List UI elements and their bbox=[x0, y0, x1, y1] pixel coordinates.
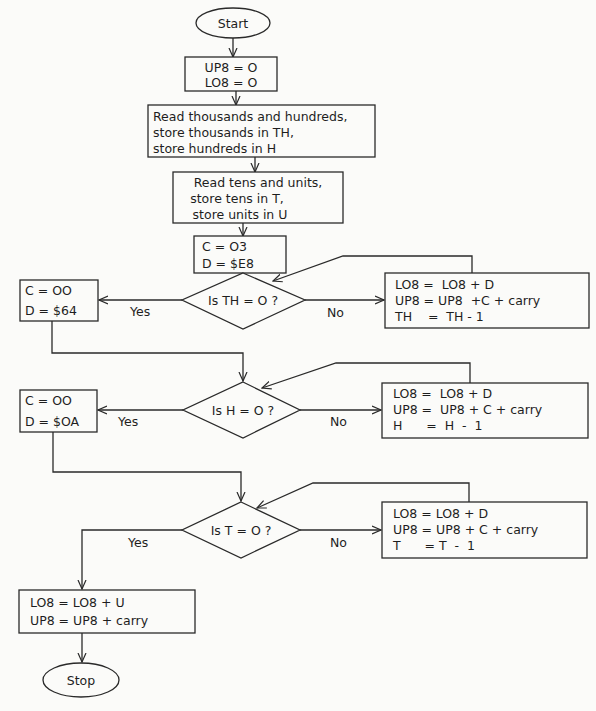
loop-t-line-1: LO8 = LO8 + D bbox=[393, 506, 488, 521]
node-set-cd-1: C = O3 D = $E8 bbox=[194, 236, 286, 273]
yes-label-th: Yes bbox=[129, 304, 150, 319]
no-label-h: No bbox=[330, 414, 347, 429]
node-loop-t: LO8 = LO8 + D UP8 = UP8 + C + carry T = … bbox=[382, 502, 587, 558]
node-set-cd-2: C = OO D = $64 bbox=[20, 280, 98, 321]
stop-label: Stop bbox=[67, 673, 95, 688]
loop-th-line-1: LO8 = LO8 + D bbox=[395, 277, 494, 292]
loop-t-line-3: T = T - 1 bbox=[392, 538, 475, 553]
set-cd-2-line-1: C = OO bbox=[25, 283, 72, 298]
no-label-th: No bbox=[327, 305, 344, 320]
decision-t-label: Is T = O ? bbox=[211, 523, 272, 538]
set-cd-1-line-1: C = O3 bbox=[202, 239, 247, 254]
flowchart: Start UP8 = O LO8 = O Read thousands and… bbox=[0, 0, 596, 711]
read-th-line-1: Read thousands and hundreds, bbox=[153, 109, 347, 124]
yes-label-t: Yes bbox=[127, 535, 148, 550]
node-loop-th: LO8 = LO8 + D UP8 = UP8 +C + carry TH = … bbox=[385, 273, 589, 328]
decision-h-label: Is H = O ? bbox=[212, 403, 274, 418]
node-read-tens-units: Read tens and units, store tens in T, st… bbox=[173, 172, 343, 223]
loop-h-line-2: UP8 = UP8 + C + carry bbox=[393, 402, 543, 417]
init-line-2: LO8 = O bbox=[205, 75, 258, 90]
final-line-2: UP8 = UP8 + carry bbox=[30, 613, 149, 628]
final-line-1: LO8 = LO8 + U bbox=[30, 595, 125, 610]
read-th-line-2: store thousands in TH, bbox=[153, 125, 294, 140]
read-tu-line-2: store tens in T, bbox=[190, 191, 284, 206]
init-line-1: UP8 = O bbox=[205, 60, 258, 75]
loop-h-line-3: H = H - 1 bbox=[393, 418, 482, 433]
start-label: Start bbox=[218, 16, 249, 31]
node-final: LO8 = LO8 + U UP8 = UP8 + carry bbox=[19, 590, 195, 633]
decision-th-label: Is TH = O ? bbox=[208, 293, 278, 308]
decision-th: Is TH = O ? bbox=[182, 273, 305, 329]
set-cd-3-line-2: D = $OA bbox=[25, 414, 80, 429]
set-cd-1-line-2: D = $E8 bbox=[202, 256, 254, 271]
node-start: Start bbox=[196, 8, 270, 38]
decision-t: Is T = O ? bbox=[182, 502, 300, 558]
read-tu-line-3: store units in U bbox=[193, 207, 288, 222]
decision-h: Is H = O ? bbox=[183, 382, 300, 438]
node-set-cd-3: C = OO D = $OA bbox=[20, 390, 97, 432]
read-tu-line-1: Read tens and units, bbox=[194, 175, 323, 190]
loop-th-line-3: TH = TH - 1 bbox=[394, 309, 484, 324]
yes-label-h: Yes bbox=[117, 414, 138, 429]
loop-th-line-2: UP8 = UP8 +C + carry bbox=[395, 293, 541, 308]
node-read-thousands-hundreds: Read thousands and hundreds, store thous… bbox=[148, 105, 375, 157]
loop-t-line-2: UP8 = UP8 + C + carry bbox=[393, 522, 539, 537]
read-th-line-3: store hundreds in H bbox=[153, 141, 276, 156]
loop-h-line-1: LO8 = LO8 + D bbox=[393, 386, 492, 401]
set-cd-2-line-2: D = $64 bbox=[25, 303, 77, 318]
node-loop-h: LO8 = LO8 + D UP8 = UP8 + C + carry H = … bbox=[382, 383, 588, 438]
node-stop: Stop bbox=[43, 663, 119, 697]
no-label-t: No bbox=[330, 535, 347, 550]
set-cd-3-line-1: C = OO bbox=[25, 393, 72, 408]
node-init: UP8 = O LO8 = O bbox=[185, 57, 277, 91]
